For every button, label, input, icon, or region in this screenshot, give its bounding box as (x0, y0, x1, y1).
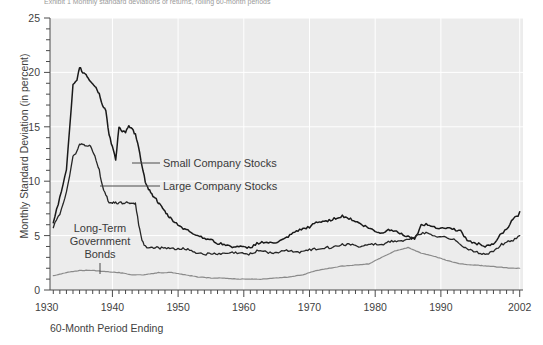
callout-bonds-line1: Long-Term (74, 222, 127, 234)
x-axis-tick-label: 1990 (429, 301, 453, 313)
line-chart-svg: 0510152025 19301940195019601970198019902… (0, 0, 543, 345)
callout-small-company-stocks: Small Company Stocks (163, 157, 277, 169)
y-axis-label: Monthly Standard Deviation (in percent) (18, 26, 30, 266)
callout-bonds-line2: Government (70, 235, 131, 247)
x-axis-tick-label: 1960 (232, 301, 256, 313)
x-axis-tick-label: 1930 (35, 301, 59, 313)
x-axis-tick-label: 1950 (166, 301, 190, 313)
x-axis-tick-label: 2002 (508, 301, 532, 313)
y-axis-group: 0510152025 (28, 12, 50, 296)
y-axis-tick-label: 15 (28, 121, 40, 133)
x-axis-tick-label: 1940 (101, 301, 125, 313)
callout-bonds-line3: Bonds (84, 248, 116, 260)
y-axis-tick-label: 10 (28, 175, 40, 187)
callout-large-company-stocks: Large Company Stocks (163, 180, 278, 192)
y-axis-tick-label: 0 (34, 284, 40, 296)
chart-figure: Exhibit 1 Monthly standard deviations of… (0, 0, 543, 345)
y-axis-tick-label: 20 (28, 66, 40, 78)
x-axis-tick-label: 1980 (364, 301, 388, 313)
y-axis-tick-label: 25 (28, 12, 40, 24)
x-axis-tick-label: 1970 (298, 301, 322, 313)
plot-area-wrapper: 0510152025 19301940195019601970198019902… (0, 0, 543, 345)
y-axis-tick-label: 5 (34, 230, 40, 242)
x-axis-caption: 60-Month Period Ending (50, 322, 163, 334)
x-axis-group: 19301940195019601970198019902002 (35, 290, 532, 313)
